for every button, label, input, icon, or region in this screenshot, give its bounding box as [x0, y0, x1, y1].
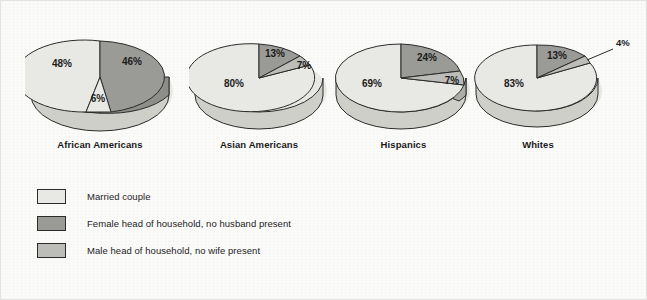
- legend-label-male-head: Male head of household, no wife present: [87, 245, 260, 256]
- legend-swatch-female-head: [37, 216, 66, 231]
- slice-label-female: 46%: [122, 56, 142, 67]
- legend-label-married-couple: Married couple: [87, 191, 151, 202]
- chart-legend: Married couple Female head of household,…: [37, 183, 291, 264]
- callout-leader-line: [587, 49, 613, 60]
- legend-swatch-male-head: [37, 243, 66, 258]
- pie-chart-hispanics: 69% 24% 7% Hispanics: [331, 21, 476, 157]
- pie-svg-hispanics: 69% 24% 7%: [331, 21, 476, 137]
- slice-label-female: 13%: [265, 48, 285, 59]
- pie-chart-figure: 48% 46% 6% African Americans 80% 13% 7% …: [0, 0, 647, 300]
- slice-label-married: 83%: [504, 78, 524, 89]
- slice-label-male: 6%: [91, 93, 106, 104]
- slice-label-female: 13%: [547, 50, 567, 61]
- slice-label-married: 80%: [224, 78, 244, 89]
- legend-item-male-head[interactable]: Male head of household, no wife present: [37, 237, 291, 264]
- legend-item-female-head[interactable]: Female head of household, no husband pre…: [37, 210, 291, 237]
- pie-chart-whites: 83% 13% 4% Whites: [473, 21, 643, 157]
- pie-caption-hispanics: Hispanics: [331, 139, 476, 150]
- pie-caption-african-americans: African Americans: [25, 139, 175, 150]
- legend-swatch-married-couple: [37, 189, 66, 204]
- slice-married: [25, 40, 100, 112]
- pie-svg-whites: 83% 13% 4%: [473, 21, 643, 137]
- slice-label-male: 7%: [297, 60, 312, 71]
- slice-label-married: 48%: [52, 58, 72, 69]
- slice-label-female: 24%: [417, 52, 437, 63]
- slice-label-male: 4%: [616, 37, 630, 48]
- pie-svg-asian-americans: 80% 13% 7%: [189, 21, 329, 137]
- slice-label-married: 69%: [362, 78, 382, 89]
- slice-label-male: 7%: [445, 75, 460, 86]
- pie-svg-african-americans: 48% 46% 6%: [25, 17, 175, 137]
- pie-chart-african-americans: 48% 46% 6% African Americans: [25, 17, 175, 157]
- legend-label-female-head: Female head of household, no husband pre…: [87, 218, 291, 229]
- pie-caption-whites: Whites: [473, 139, 603, 150]
- legend-item-married-couple[interactable]: Married couple: [37, 183, 291, 210]
- pie-caption-asian-americans: Asian Americans: [189, 139, 329, 150]
- pie-chart-asian-americans: 80% 13% 7% Asian Americans: [189, 21, 329, 157]
